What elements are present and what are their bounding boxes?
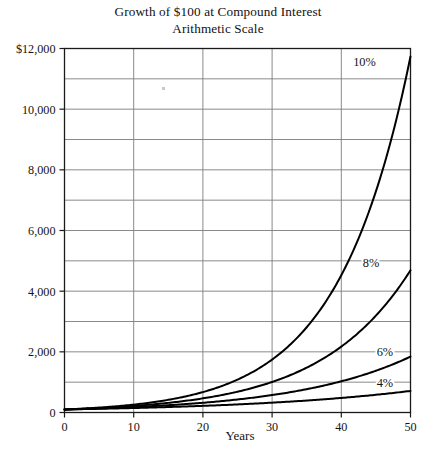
chart-plot-svg: 02,0004,0006,0008,00010,000$12,000 01020… <box>0 0 436 462</box>
y-axis-tick-label: 6,000 <box>28 224 55 238</box>
y-axis-tick-label: 0 <box>49 406 55 420</box>
x-axis-tick-label: 30 <box>266 420 278 434</box>
y-axis-tick-label: 4,000 <box>28 285 55 299</box>
series-label-text: 6% <box>377 345 394 359</box>
x-axis-tick-label: 10 <box>128 420 140 434</box>
x-axis-tick-label: 40 <box>335 420 347 434</box>
curve-6pct <box>65 357 411 410</box>
series-labels: 4%4%6%6%8%8%10%10% <box>353 55 393 389</box>
horizontal-gridlines <box>65 79 411 382</box>
x-axis-tick-label: 0 <box>61 420 67 434</box>
y-axis-tick-label: $12,000 <box>16 42 56 56</box>
series-label-4pct: 4%4% <box>377 376 394 390</box>
series-label-text: 4% <box>377 376 394 390</box>
x-axis-tick-label: 50 <box>404 420 416 434</box>
series-label-10pct: 10%10% <box>353 55 376 69</box>
y-axis-tick-labels: 02,0004,0006,0008,00010,000$12,000 <box>16 42 56 420</box>
y-axis-tick-label: 2,000 <box>28 345 55 359</box>
y-axis-tick-label: 10,000 <box>22 103 56 117</box>
chart-container: Growth of $100 at Compound Interest Arit… <box>0 0 436 462</box>
axis-ticks <box>60 49 411 418</box>
series-label-text: 8% <box>363 256 380 270</box>
x-axis-title: Years <box>225 428 254 443</box>
x-axis-tick-label: 20 <box>197 420 209 434</box>
series-label-8pct: 8%8% <box>363 256 380 270</box>
y-axis-tick-label: 8,000 <box>28 163 55 177</box>
series-label-text: 10% <box>353 55 376 69</box>
series-label-6pct: 6%6% <box>377 345 394 359</box>
